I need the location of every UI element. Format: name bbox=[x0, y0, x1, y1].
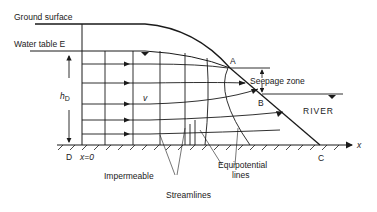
water-level-icon bbox=[141, 52, 149, 56]
streamlines bbox=[82, 62, 283, 137]
x-axis-label: x bbox=[356, 140, 362, 150]
point-b-label: B bbox=[258, 98, 264, 108]
streamlines-label: Streamlines bbox=[166, 190, 211, 200]
point-d-label: D bbox=[66, 152, 72, 162]
impermeable-base bbox=[57, 145, 352, 150]
river-label: RIVER bbox=[303, 106, 334, 116]
equipotential-lines-label: lines bbox=[232, 170, 249, 180]
equipotential-label: Equipotential bbox=[218, 160, 267, 170]
point-a-label: A bbox=[230, 56, 236, 66]
ground-surface-label: Ground surface bbox=[14, 12, 73, 22]
seepage-zone-label: Seepage zone bbox=[250, 76, 305, 86]
head-label: hD bbox=[60, 91, 70, 102]
point-c-label: C bbox=[318, 153, 324, 163]
origin-label: x=0 bbox=[79, 152, 94, 162]
river-level-icon bbox=[328, 95, 336, 99]
flow-net-diagram: Ground surface Water table E hD v A B C … bbox=[0, 0, 377, 212]
impermeable-label: Impermeable bbox=[104, 171, 154, 181]
velocity-label: v bbox=[143, 93, 148, 103]
water-table-label: Water table E bbox=[14, 39, 66, 49]
